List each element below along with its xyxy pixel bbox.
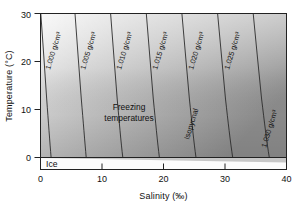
x-tick-label-0: 0 — [38, 174, 43, 184]
y-tick-label-10: 10 — [21, 105, 31, 115]
chart-canvas: 1.000 g/cm³ 1.005 g/cm³ 1.010 g/cm³ 1.01… — [0, 0, 305, 206]
x-tick-label-30: 30 — [220, 174, 230, 184]
x-tick-label-40: 40 — [281, 174, 291, 184]
ice-label: Ice — [46, 159, 58, 169]
freezing-temperatures-label-line1: Freezing — [113, 102, 146, 112]
y-tick-label-30: 30 — [21, 10, 31, 20]
y-tick-label-0: 0 — [26, 153, 31, 163]
y-tick-label-20: 20 — [21, 57, 31, 67]
x-tick-label-20: 20 — [158, 174, 168, 184]
freezing-temperatures-label-line2: temperatures — [104, 113, 153, 123]
y-axis-title: Temperature (°C) — [4, 50, 14, 122]
x-tick-label-10: 10 — [97, 174, 107, 184]
x-axis-title: Salinity (‰) — [139, 191, 187, 201]
seawater-density-figure: 1.000 g/cm³ 1.005 g/cm³ 1.010 g/cm³ 1.01… — [0, 0, 305, 206]
